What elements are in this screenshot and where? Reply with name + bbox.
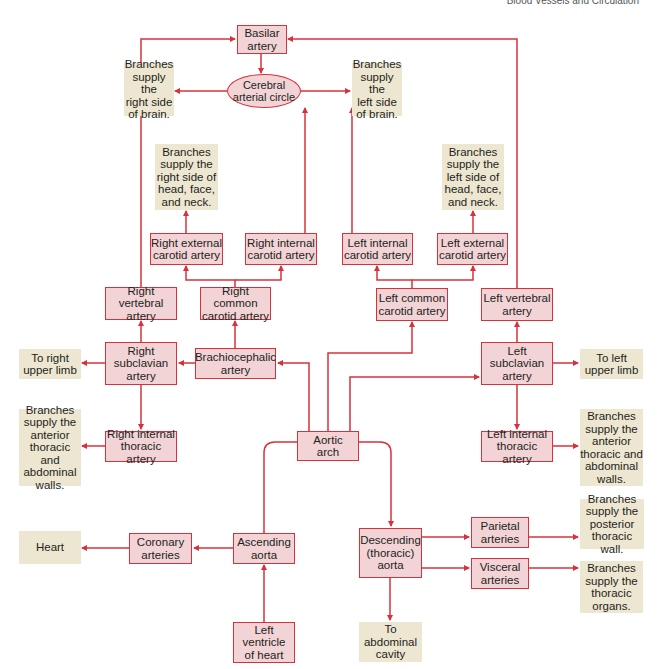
connector-lines [0,0,657,669]
node-cerebral-arterial-circle: Cerebral arterial circle [227,74,301,108]
node-right-common-carotid: Right common carotid artery [200,287,271,320]
node-descending-aorta: Descending (thoracic) aorta [359,528,422,578]
note-right-anterior-walls: Branches supply the anterior thoracic an… [19,409,81,486]
note-left-brain: Branches supply the left side of brain. [352,63,402,116]
node-left-internal-carotid: Left internal carotid artery [342,233,413,265]
node-ascending-aorta: Ascending aorta [233,533,295,564]
note-abdominal-cavity: To abdominal cavity [359,622,422,662]
node-left-ventricle: Left ventricle of heart [233,622,295,663]
node-brachiocephalic: Brachiocephalic artery [195,348,276,379]
note-thoracic-organs: Branches supply the thoracic organs. [580,561,643,613]
node-coronary-arteries: Coronary arteries [129,533,192,564]
node-right-subclavian: Right subclavian artery [105,342,177,385]
node-aortic-arch: Aortic arch [297,431,359,461]
node-right-external-carotid: Right external carotid artery [150,233,223,265]
node-right-internal-thoracic: Right internal thoracic artery [105,431,177,462]
node-left-external-carotid: Left external carotid artery [437,233,508,265]
note-left-head-face-neck: Branches supply the left side of head, f… [442,144,504,210]
node-left-internal-thoracic: Left internal thoracic artery [481,431,553,462]
note-left-upper-limb: To left upper limb [580,349,643,379]
node-right-vertebral: Right vertebral artery [105,287,177,320]
note-heart: Heart [19,531,81,564]
node-basilar-artery: Basilar artery [237,25,287,54]
note-left-anterior-walls: Branches supply the anterior thoracic an… [580,409,643,486]
note-posterior-thoracic-wall: Branches supply the posterior thoracic w… [580,499,644,549]
note-right-head-face-neck: Branches supply the right side of head, … [155,144,218,210]
note-right-upper-limb: To right upper limb [19,349,81,379]
note-right-brain: Branches supply the right side of brain. [124,63,174,116]
node-right-internal-carotid: Right internal carotid artery [245,233,317,265]
node-left-vertebral: Left vertebral artery [481,288,553,321]
node-left-common-carotid: Left common carotid artery [376,288,448,321]
node-left-subclavian: Left subclavian artery [481,342,553,385]
node-parietal-arteries: Parietal arteries [471,517,529,548]
node-visceral-arteries: Visceral arteries [471,558,529,589]
